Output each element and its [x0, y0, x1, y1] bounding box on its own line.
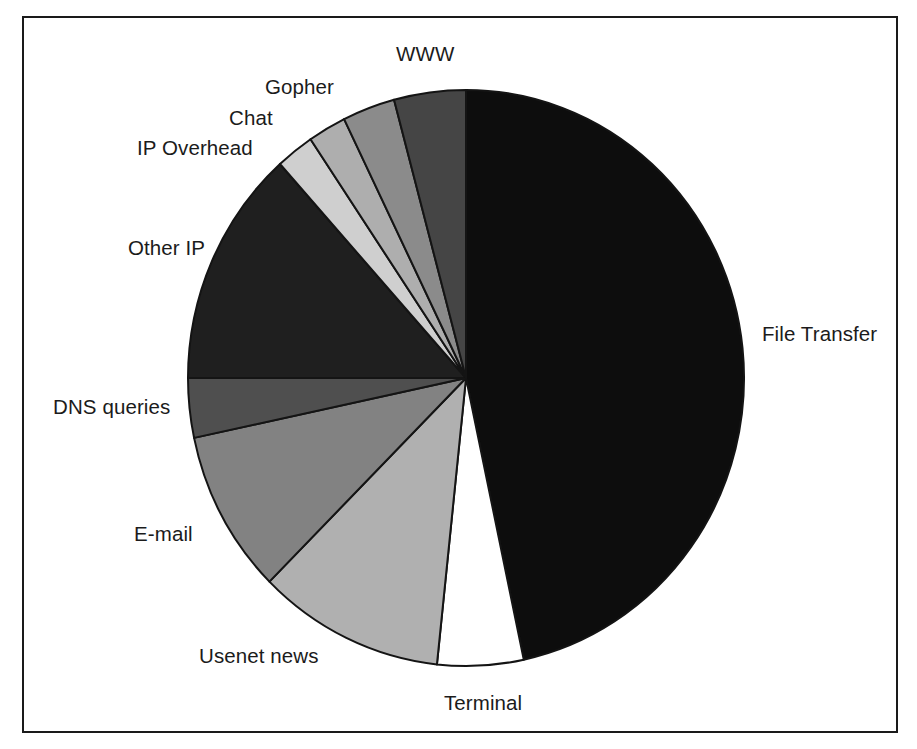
pie-slice-file-transfer [466, 90, 744, 660]
pie-label-usenet-news: Usenet news [199, 646, 319, 667]
pie-label-ip-overhead: IP Overhead [137, 138, 253, 159]
pie-label-other-ip: Other IP [128, 238, 205, 259]
pie-label-chat: Chat [229, 108, 273, 129]
pie-chart: WWW Gopher Chat IP Overhead Other IP DNS… [0, 0, 917, 749]
figure-root: WWW Gopher Chat IP Overhead Other IP DNS… [0, 0, 917, 749]
pie-label-gopher: Gopher [265, 77, 334, 98]
pie-label-file-transfer: File Transfer [762, 324, 877, 345]
pie-label-www: WWW [396, 44, 454, 65]
pie-label-terminal: Terminal [444, 693, 522, 714]
pie-chart-svg [0, 0, 917, 749]
pie-label-dns-queries: DNS queries [53, 397, 170, 418]
pie-label-email: E-mail [134, 524, 193, 545]
pie-slice-group [188, 90, 744, 666]
